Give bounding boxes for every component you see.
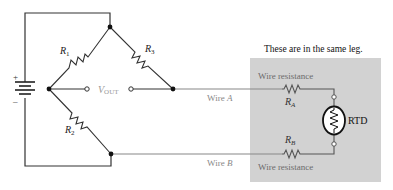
rtd-icon xyxy=(323,107,345,135)
wire-b-label: Wire B xyxy=(207,158,233,168)
r1-resistor-icon xyxy=(49,27,110,89)
wire-resistance-top-label: Wire resistance xyxy=(258,71,313,81)
wire-resistance-bottom-label: Wire resistance xyxy=(258,162,313,172)
battery-plus-label: + xyxy=(13,72,18,82)
r3-resistor-icon xyxy=(110,27,173,89)
r3-label: R3 xyxy=(144,43,155,56)
rtd-terminal-bottom xyxy=(332,142,336,146)
battery-minus-label: – xyxy=(12,96,18,106)
vout-label: VOUT xyxy=(98,84,119,96)
same-leg-note: These are in the same leg. xyxy=(264,44,363,54)
battery-icon xyxy=(15,82,35,94)
bridge-circuit-diagram: + – xyxy=(0,0,393,190)
r1-label: R1 xyxy=(59,45,70,58)
rtd-terminal-top xyxy=(332,95,336,99)
r2-resistor-icon xyxy=(49,89,111,154)
r2-label: R2 xyxy=(64,124,75,137)
rtd-label: RTD xyxy=(348,115,367,126)
wire-a-label: Wire A xyxy=(207,93,233,103)
